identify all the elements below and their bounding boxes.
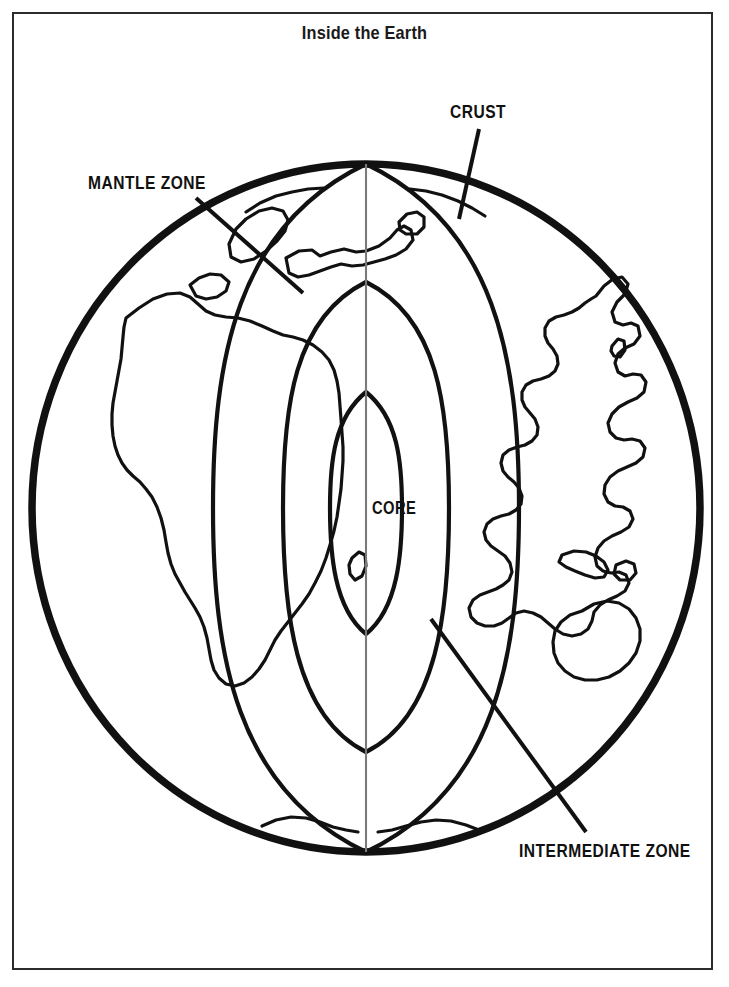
- antarctic-edge-outline: [262, 817, 358, 832]
- core-boundary-left: [330, 392, 366, 634]
- page-canvas: Inside the Earth: [0, 0, 729, 987]
- label-crust: CRUST: [450, 101, 506, 123]
- antarctic-edge-right-outline: [378, 820, 479, 832]
- label-mantle-zone: MANTLE ZONE: [88, 172, 206, 194]
- mantle-zone-boundary-left: [213, 164, 366, 852]
- indonesia-outline: [559, 551, 608, 578]
- asia-outline: [469, 277, 646, 636]
- earth-cutaway-diagram: [0, 0, 729, 987]
- west-europe-outline: [190, 274, 229, 299]
- indonesia-east-outline: [614, 561, 636, 580]
- label-core: CORE: [372, 498, 416, 519]
- australia-outline: [553, 601, 640, 680]
- east-africa-islands-outline: [349, 552, 366, 580]
- label-intermediate-zone: INTERMEDIATE ZONE: [519, 840, 691, 862]
- northern-europe-outline: [286, 226, 413, 277]
